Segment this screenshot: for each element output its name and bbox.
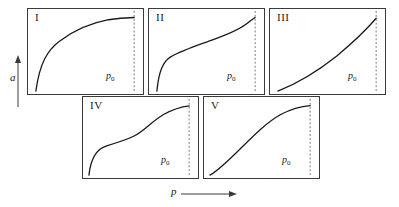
p0-subscript-IV: 0 (166, 159, 170, 167)
isotherm-curve-I (28, 9, 143, 94)
panel-type-V: V p0 (203, 96, 320, 179)
p0-label-IV: p0 (161, 155, 170, 165)
p0-label-II: p0 (227, 71, 236, 81)
isotherm-curve-II (149, 9, 264, 94)
p0-subscript-V: 0 (287, 159, 291, 167)
p0-label-III: p0 (348, 71, 357, 81)
p0-label-V: p0 (282, 155, 291, 165)
y-axis-label: a (10, 72, 16, 83)
isotherm-curve-III (270, 9, 385, 94)
x-axis-arrow-svg (181, 188, 237, 200)
panel-type-I: I p0 (27, 8, 144, 95)
panel-type-II: II p0 (148, 8, 265, 95)
panel-type-IV: IV p0 (82, 96, 199, 179)
panel-type-III: III p0 (269, 8, 386, 95)
p0-subscript-III: 0 (353, 75, 357, 83)
adsorption-isotherm-figure: a I p0 II p0 III p0 IV (0, 0, 399, 207)
x-axis-arrow (181, 186, 237, 198)
p0-subscript-II: 0 (232, 75, 236, 83)
isotherm-curve-V (204, 97, 319, 178)
p0-subscript-I: 0 (111, 75, 115, 83)
isotherm-curve-IV (83, 97, 198, 178)
p0-label-I: p0 (106, 71, 115, 81)
x-axis-label: p (171, 186, 177, 197)
